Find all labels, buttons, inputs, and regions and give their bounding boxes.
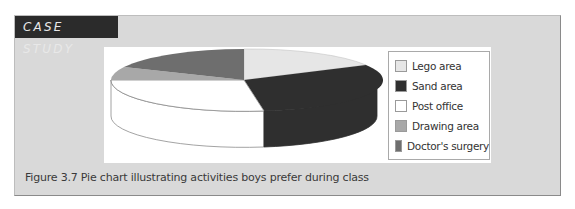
- legend-item-doctors-surgery: Doctor's surgery: [395, 136, 489, 156]
- legend-item-drawing-area: Drawing area: [395, 116, 489, 136]
- legend-swatch: [395, 100, 407, 112]
- legend-item-sand-area: Sand area: [395, 76, 489, 96]
- case-study-box: CASE STUDY Lego area Sand area: [14, 15, 561, 196]
- legend-swatch: [395, 140, 402, 152]
- legend-item-post-office: Post office: [395, 96, 489, 116]
- legend-label: Lego area: [412, 60, 461, 72]
- chart-legend: Lego area Sand area Post office Drawing …: [388, 51, 490, 160]
- figure-caption: Figure 3.7 Pie chart illustrating activi…: [25, 171, 369, 184]
- legend-label: Drawing area: [412, 120, 479, 132]
- legend-item-lego-area: Lego area: [395, 56, 489, 76]
- legend-swatch: [395, 60, 407, 72]
- legend-label: Post office: [412, 100, 463, 112]
- case-study-label: CASE STUDY: [15, 16, 118, 38]
- chart-panel: Lego area Sand area Post office Drawing …: [104, 47, 491, 163]
- legend-label: Doctor's surgery: [407, 140, 489, 152]
- legend-label: Sand area: [412, 80, 462, 92]
- pie-chart: [104, 47, 384, 163]
- legend-swatch: [395, 80, 407, 92]
- legend-swatch: [395, 120, 407, 132]
